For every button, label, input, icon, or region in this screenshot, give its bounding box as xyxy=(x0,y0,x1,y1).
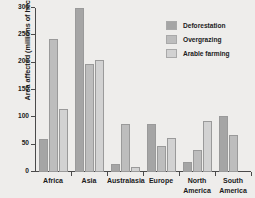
x-axis-category-label: North America xyxy=(179,176,215,195)
bar[interactable] xyxy=(229,135,238,172)
x-axis-tick xyxy=(251,172,252,176)
bar[interactable] xyxy=(85,64,94,172)
legend-swatch xyxy=(166,21,177,30)
bar[interactable] xyxy=(147,124,156,172)
bar[interactable] xyxy=(167,138,176,172)
legend-item[interactable]: Overgrazing xyxy=(166,33,230,45)
bar-group xyxy=(71,8,107,172)
y-axis-tick-label: 50 xyxy=(22,139,29,146)
bar[interactable] xyxy=(49,39,58,172)
x-axis-category-label: Africa xyxy=(35,176,71,186)
y-axis-tick-label: 100 xyxy=(18,112,29,119)
bar[interactable] xyxy=(157,146,166,172)
x-axis-category-label: Australasia xyxy=(107,176,143,186)
bar[interactable] xyxy=(193,150,202,172)
bar-group xyxy=(35,8,71,172)
x-axis-category-label: South America xyxy=(215,176,251,195)
bar[interactable] xyxy=(111,164,120,172)
bar-chart: Area affected (millions of hectares) 050… xyxy=(0,0,255,198)
bar[interactable] xyxy=(203,121,212,172)
bar-group xyxy=(107,8,143,172)
legend-label: Overgrazing xyxy=(183,36,221,43)
x-axis-category-label: Europe xyxy=(143,176,179,186)
y-axis-tick-label: 250 xyxy=(18,30,29,37)
bar[interactable] xyxy=(183,162,192,172)
legend-label: Arable farming xyxy=(183,50,230,57)
y-axis-tick-label: 300 xyxy=(18,3,29,10)
bar[interactable] xyxy=(75,8,84,172)
legend-item[interactable]: Arable farming xyxy=(166,47,230,59)
legend-label: Deforestation xyxy=(183,22,226,29)
bar[interactable] xyxy=(95,60,104,172)
bar[interactable] xyxy=(121,124,130,172)
bar[interactable] xyxy=(219,116,228,172)
chart-legend: DeforestationOvergrazingArable farming xyxy=(166,19,230,61)
x-axis-category-label: Asia xyxy=(71,176,107,186)
legend-swatch xyxy=(166,35,177,44)
y-axis-tick-label: 150 xyxy=(18,85,29,92)
bar[interactable] xyxy=(131,167,140,172)
y-axis-tick-label: 0 xyxy=(25,167,29,174)
bar[interactable] xyxy=(59,109,68,172)
y-axis-tick-label: 200 xyxy=(18,57,29,64)
legend-item[interactable]: Deforestation xyxy=(166,19,230,31)
bar[interactable] xyxy=(39,139,48,172)
legend-swatch xyxy=(166,49,177,58)
